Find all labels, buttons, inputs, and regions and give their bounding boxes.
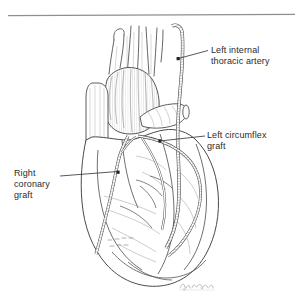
illustration-figure: Left internal thoracic artery Left circu… <box>0 0 299 303</box>
top-divider-rule <box>8 14 295 15</box>
rca-anastomosis-marker <box>116 171 119 174</box>
label-left-internal-thoracic-artery: Left internal thoracic artery <box>211 45 295 67</box>
label-right-coronary-graft: Right coronary graft <box>14 168 84 201</box>
artist-signature <box>180 284 214 290</box>
label-left-circumflex-graft: Left circumflex graft <box>207 130 293 152</box>
